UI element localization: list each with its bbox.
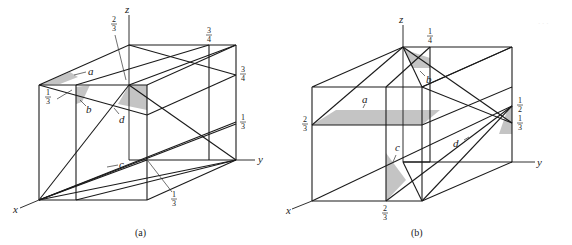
- plane-a-shade: [39, 72, 78, 85]
- svg-text:1: 1: [428, 27, 432, 36]
- fraction-1-4-top: 1 4: [427, 27, 433, 45]
- plane-a-label: a: [362, 93, 368, 105]
- svg-text:3: 3: [518, 123, 522, 132]
- x-axis: [292, 201, 312, 209]
- crystal-planes-figure: z y x a b c d 2 3 3 4 3 4 1 3 1: [0, 0, 572, 245]
- plane-d-shade: [118, 85, 147, 110]
- svg-text:3: 3: [241, 122, 245, 131]
- svg-text:3: 3: [172, 199, 176, 208]
- svg-text:1: 1: [46, 88, 50, 97]
- x-axis: [20, 200, 39, 208]
- fraction-1-3-bottom: 1 3: [171, 190, 177, 208]
- svg-text:3: 3: [112, 24, 116, 33]
- caption-b: (b): [411, 227, 423, 239]
- svg-text:2: 2: [383, 204, 387, 213]
- plane-b-label: b: [86, 103, 92, 115]
- z-axis-label: z: [124, 3, 130, 15]
- svg-text:1: 1: [172, 190, 176, 199]
- svg-text:3: 3: [207, 26, 211, 35]
- fraction-2-3-left: 2 3: [302, 115, 308, 133]
- y-axis-label: y: [257, 153, 263, 165]
- plane-c-label: c: [395, 141, 400, 153]
- fraction-3-4-right: 3 4: [240, 65, 246, 83]
- svg-text:2: 2: [303, 115, 307, 124]
- svg-text:3: 3: [303, 124, 307, 133]
- plane-b-label: b: [426, 73, 432, 85]
- y-axis-label: y: [536, 156, 542, 168]
- svg-text:3: 3: [241, 65, 245, 74]
- fraction-1-3-right: 1 3: [240, 113, 246, 131]
- x-axis-label: x: [285, 204, 291, 216]
- fraction-3-4-back: 3 4: [206, 26, 212, 44]
- plane-b-shade: [76, 85, 90, 104]
- svg-text:3: 3: [383, 213, 387, 222]
- x-axis-label: x: [12, 203, 18, 215]
- svg-text:2: 2: [112, 15, 116, 24]
- svg-text:4: 4: [428, 36, 432, 45]
- svg-text:4: 4: [207, 35, 211, 44]
- panel-a: z y x a b c d 2 3 3 4 3 4 1 3 1: [12, 3, 263, 239]
- plane-c-label: c: [119, 158, 124, 170]
- plane-a-label: a: [88, 65, 94, 77]
- fraction-1-2-right: 1 2: [517, 96, 523, 114]
- fraction-1-3-right: 1 3: [517, 114, 523, 132]
- svg-text:2: 2: [518, 105, 522, 114]
- svg-text:1: 1: [518, 114, 522, 123]
- caption-a: (a): [135, 227, 146, 239]
- svg-text:1: 1: [241, 113, 245, 122]
- svg-text:3: 3: [46, 97, 50, 106]
- svg-text:4: 4: [241, 74, 245, 83]
- plane-a-shade: [312, 110, 440, 125]
- fraction-2-3-top: 2 3: [111, 15, 117, 33]
- plane-d-label: d: [119, 113, 125, 125]
- plane-d-label: d: [453, 137, 459, 149]
- panel-b: z y x a b c d 1 4 2 3 1 2 1 3 2: [285, 13, 549, 239]
- svg-text:1: 1: [518, 96, 522, 105]
- fraction-2-3-bottom: 2 3: [382, 204, 388, 222]
- z-axis-label: z: [398, 13, 404, 25]
- fraction-1-3-left: 1 3: [45, 88, 51, 106]
- faint-corner-mark: · · ·: [538, 20, 549, 28]
